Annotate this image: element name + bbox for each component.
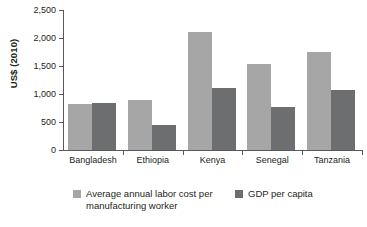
legend-item-gdp: GDP per capita xyxy=(235,188,365,200)
legend-item-labor-cost: Average annual labor cost per manufactur… xyxy=(73,188,233,211)
x-tick-separator xyxy=(362,150,363,155)
bar-tanzania-series0 xyxy=(307,52,331,150)
legend-label-gdp: GDP per capita xyxy=(248,188,313,200)
y-tick-label: 500 xyxy=(41,117,56,127)
y-tick-label: 2,500 xyxy=(33,5,56,15)
bar-group-senegal: Senegal xyxy=(242,10,302,150)
legend-label-labor-cost: Average annual labor cost per manufactur… xyxy=(86,188,213,211)
plot-area: 05001,0001,5002,0002,500 BangladeshEthio… xyxy=(63,10,362,150)
legend-label-line1: Average annual labor cost per xyxy=(86,188,213,200)
legend-swatch-icon-labor-cost xyxy=(73,190,81,198)
bar-bangladesh-series0 xyxy=(68,104,92,150)
legend-label-line2: manufacturing worker xyxy=(86,200,213,212)
bar-group-ethiopia: Ethiopia xyxy=(123,10,183,150)
legend-swatch-icon-gdp xyxy=(235,190,243,198)
y-tick-mark xyxy=(59,150,63,151)
x-axis-label-ethiopia: Ethiopia xyxy=(123,155,183,165)
x-axis-label-bangladesh: Bangladesh xyxy=(63,155,123,165)
y-tick-label: 1,000 xyxy=(33,89,56,99)
bar-bangladesh-series1 xyxy=(92,103,116,150)
bar-senegal-series1 xyxy=(271,107,295,150)
bar-chart: US$ (2010) 05001,0001,5002,0002,500 Bang… xyxy=(0,0,367,227)
bar-group-kenya: Kenya xyxy=(183,10,243,150)
bar-ethiopia-series0 xyxy=(128,100,152,150)
bar-group-bangladesh: Bangladesh xyxy=(63,10,123,150)
x-axis-label-tanzania: Tanzania xyxy=(302,155,362,165)
x-axis-label-senegal: Senegal xyxy=(242,155,302,165)
x-axis-label-kenya: Kenya xyxy=(183,155,243,165)
bar-senegal-series0 xyxy=(247,64,271,150)
bar-kenya-series0 xyxy=(188,32,212,150)
y-tick-label: 0 xyxy=(51,145,56,155)
bar-group-tanzania: Tanzania xyxy=(302,10,362,150)
y-axis-title: US$ (2010) xyxy=(8,21,19,107)
y-tick-label: 1,500 xyxy=(33,61,56,71)
bar-tanzania-series1 xyxy=(331,90,355,150)
bar-kenya-series1 xyxy=(212,88,236,150)
bar-ethiopia-series1 xyxy=(152,125,176,150)
x-axis-line xyxy=(63,150,362,151)
y-tick-label: 2,000 xyxy=(33,33,56,43)
